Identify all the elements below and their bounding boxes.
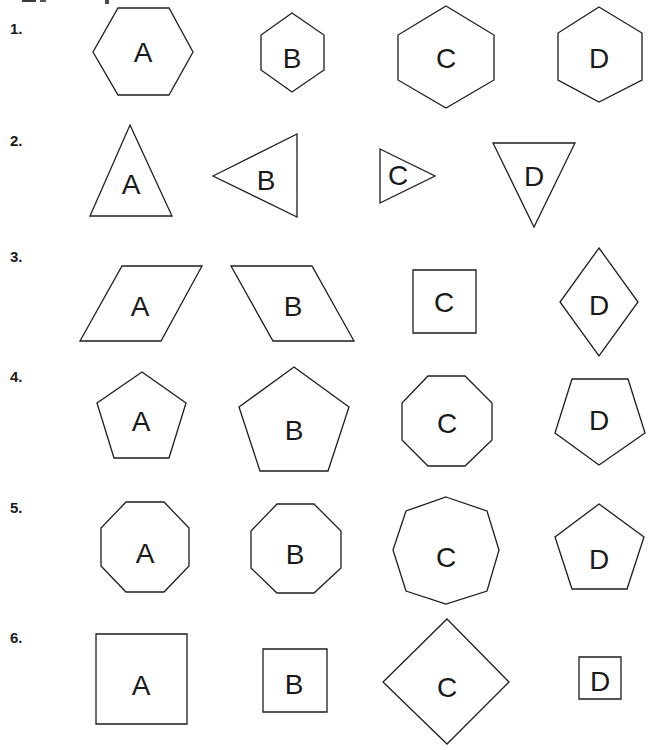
shape-option-d[interactable]: D bbox=[555, 504, 644, 589]
question-row-1: 1.ABCD bbox=[10, 6, 642, 108]
question-number: 6. bbox=[10, 629, 23, 646]
option-letter: D bbox=[589, 290, 609, 321]
shape-option-c[interactable]: C bbox=[413, 270, 476, 333]
shape-option-c[interactable]: C bbox=[380, 149, 435, 203]
option-letter: A bbox=[134, 37, 153, 68]
shape-option-a[interactable]: A bbox=[101, 502, 189, 592]
option-letter: D bbox=[524, 161, 544, 192]
option-letter: B bbox=[285, 669, 304, 700]
shape-option-a[interactable]: A bbox=[93, 8, 193, 95]
shape-option-d[interactable]: D bbox=[493, 143, 575, 227]
option-letter: D bbox=[589, 405, 609, 436]
option-letter: C bbox=[388, 160, 408, 191]
shape-option-b[interactable]: B bbox=[263, 649, 327, 712]
shape-matching-worksheet: 1.ABCD2.ABCD3.ABCD4.ABCD5.ABCD6.ABCD bbox=[0, 0, 655, 750]
shape-option-d[interactable]: D bbox=[579, 657, 621, 699]
option-letter: C bbox=[436, 43, 456, 74]
shape-option-c[interactable]: C bbox=[393, 497, 499, 604]
option-letter: C bbox=[436, 542, 456, 573]
option-letter: B bbox=[283, 43, 302, 74]
question-number: 3. bbox=[10, 248, 23, 265]
clipped-heading-fragments bbox=[22, 0, 109, 4]
shape-option-b[interactable]: B bbox=[261, 13, 324, 92]
shape-option-d[interactable]: D bbox=[560, 248, 638, 356]
option-letter: C bbox=[437, 408, 457, 439]
question-row-2: 2.ABCD bbox=[10, 125, 575, 227]
option-letter: A bbox=[131, 291, 150, 322]
triangle-left-shape[interactable] bbox=[213, 134, 297, 217]
shape-option-a[interactable]: A bbox=[96, 634, 187, 724]
question-number: 1. bbox=[10, 20, 23, 37]
shape-option-b[interactable]: B bbox=[251, 504, 341, 593]
question-number: 2. bbox=[10, 132, 23, 149]
option-letter: B bbox=[284, 291, 303, 322]
option-letter: D bbox=[590, 666, 610, 697]
option-letter: A bbox=[136, 538, 155, 569]
shape-option-b[interactable]: B bbox=[231, 266, 354, 341]
option-letter: C bbox=[434, 287, 454, 318]
shape-option-c[interactable]: C bbox=[398, 6, 494, 108]
option-letter: C bbox=[437, 672, 457, 703]
question-row-5: 5.ABCD bbox=[10, 497, 644, 604]
shape-option-d[interactable]: D bbox=[555, 379, 645, 465]
question-row-4: 4.ABCD bbox=[10, 367, 645, 471]
question-number: 4. bbox=[10, 368, 23, 385]
shape-option-d[interactable]: D bbox=[558, 7, 642, 102]
question-rows: 1.ABCD2.ABCD3.ABCD4.ABCD5.ABCD6.ABCD bbox=[10, 6, 645, 744]
shape-option-a[interactable]: A bbox=[97, 372, 186, 458]
option-letter: A bbox=[122, 169, 141, 200]
shape-option-a[interactable]: A bbox=[80, 266, 202, 341]
option-letter: B bbox=[285, 415, 304, 446]
question-row-3: 3.ABCD bbox=[10, 248, 638, 356]
option-letter: D bbox=[589, 43, 609, 74]
option-letter: A bbox=[132, 406, 151, 437]
option-letter: B bbox=[286, 539, 305, 570]
shape-option-b[interactable]: B bbox=[213, 134, 297, 217]
shape-option-a[interactable]: A bbox=[90, 125, 172, 216]
shape-option-c[interactable]: C bbox=[383, 619, 509, 744]
option-letter: D bbox=[589, 544, 609, 575]
question-row-6: 6.ABCD bbox=[10, 619, 621, 744]
shape-option-b[interactable]: B bbox=[239, 367, 349, 471]
question-number: 5. bbox=[10, 499, 23, 516]
option-letter: B bbox=[257, 165, 276, 196]
option-letter: A bbox=[132, 670, 151, 701]
shape-option-c[interactable]: C bbox=[402, 376, 492, 466]
